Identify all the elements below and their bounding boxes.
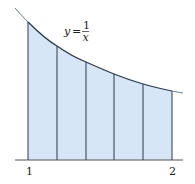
function-label-lhs: y <box>63 25 71 38</box>
function-label-denominator: x <box>83 31 90 44</box>
function-label-equals: = <box>72 25 81 38</box>
shaded-area <box>28 22 172 160</box>
x-tick-label-2: 2 <box>169 165 176 178</box>
area-under-curve-diagram: y = 1 x 1 2 <box>0 0 195 184</box>
x-tick-label-1: 1 <box>26 165 33 178</box>
function-label: y = 1 x <box>63 19 90 44</box>
